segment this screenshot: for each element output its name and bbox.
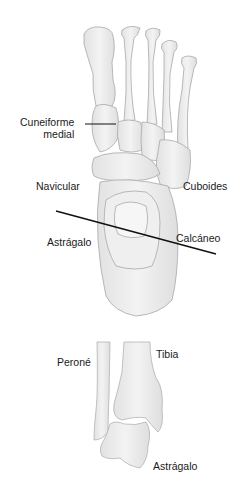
label-perone: Peroné bbox=[57, 356, 91, 368]
label-calcaneo: Calcáneo bbox=[176, 232, 220, 244]
perone-bone bbox=[94, 342, 110, 440]
metatarsal-1-bone bbox=[84, 27, 115, 109]
label-cuneiforme-line1: Cuneiforme bbox=[20, 116, 74, 128]
metatarsal-5-bone bbox=[178, 56, 197, 152]
cuneiforme-medial-bone bbox=[92, 104, 119, 152]
label-tibia: Tibia bbox=[156, 348, 178, 360]
foot-anatomy-diagram: Cuneiforme medial Navicular Cuboides Ast… bbox=[0, 0, 238, 480]
label-astragalo-ankle: Astrágalo bbox=[153, 460, 197, 472]
label-navicular: Navicular bbox=[36, 180, 80, 192]
label-cuboides: Cuboides bbox=[183, 180, 227, 192]
label-cuneiforme-medial: Cuneiforme medial bbox=[20, 116, 74, 140]
metatarsal-4-bone bbox=[161, 40, 177, 132]
cuneiforme-intermedio-bone bbox=[117, 120, 143, 152]
metatarsal-3-bone bbox=[145, 28, 160, 125]
label-cuneiforme-line2: medial bbox=[20, 128, 74, 140]
label-astragalo: Astrágalo bbox=[47, 236, 91, 248]
metatarsal-2-bone bbox=[121, 26, 140, 122]
astragalo-bone bbox=[104, 191, 160, 269]
